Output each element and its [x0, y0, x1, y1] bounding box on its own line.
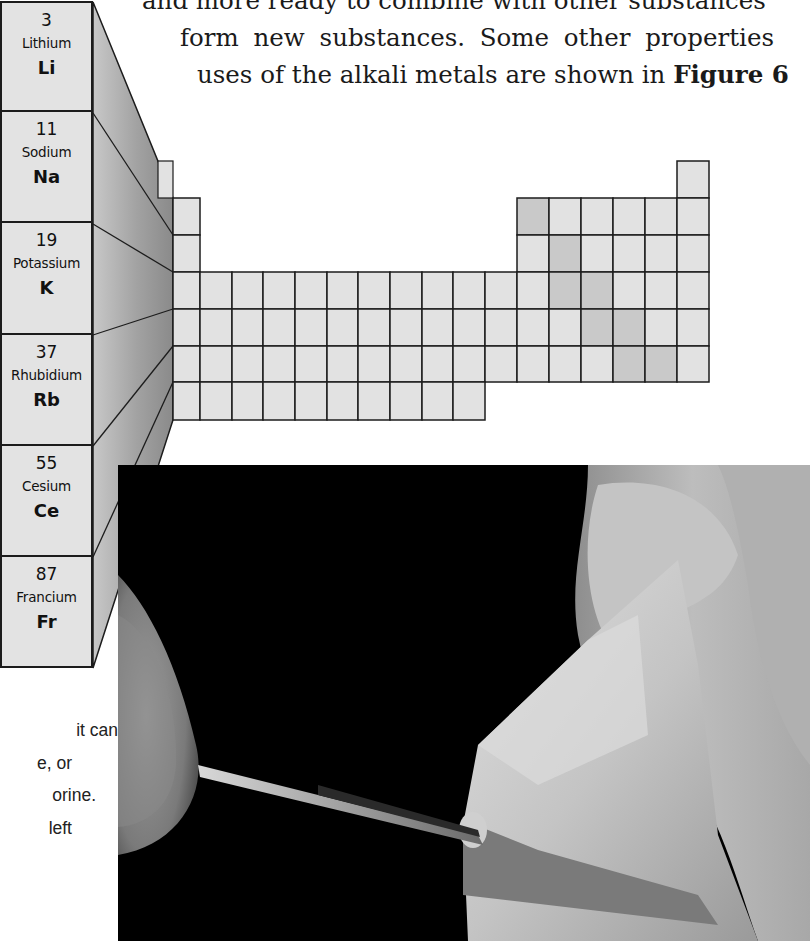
element-cell	[645, 272, 677, 309]
element-cell	[645, 309, 677, 346]
element-symbol: Li	[2, 54, 91, 82]
element-cell	[517, 346, 549, 382]
element-cell	[390, 346, 422, 382]
element-cell	[517, 198, 549, 235]
element-cell	[173, 346, 200, 382]
element-cell-potassium: 19 Potassium K	[0, 223, 93, 334]
element-cell	[422, 382, 453, 420]
element-name: Potassium	[2, 252, 91, 274]
element-cell	[645, 346, 677, 382]
element-cell-rubidium: 37 Rhubidium Rb	[0, 335, 93, 446]
element-cell	[173, 309, 200, 346]
element-cell	[173, 198, 200, 235]
element-symbol: Ce	[2, 497, 91, 525]
element-cell	[517, 235, 549, 272]
element-cell	[677, 272, 709, 309]
element-cell-lithium: 3 Lithium Li	[0, 1, 93, 112]
element-cell	[517, 272, 549, 309]
element-cell	[173, 235, 200, 272]
alkali-metal-strip: 3 Lithium Li 11 Sodium Na 19 Potassium K…	[0, 1, 93, 668]
element-cell-sodium: 11 Sodium Na	[0, 112, 93, 223]
element-cell	[549, 346, 581, 382]
atomic-number: 87	[2, 562, 91, 586]
element-name: Francium	[2, 586, 91, 608]
element-cell	[645, 198, 677, 235]
photo-illustration	[118, 465, 810, 941]
element-cell	[295, 382, 327, 420]
element-cell	[173, 272, 200, 309]
element-cell	[263, 309, 295, 346]
element-cell	[327, 382, 358, 420]
element-cell	[677, 161, 709, 198]
element-cell	[645, 235, 677, 272]
element-cell	[200, 382, 232, 420]
element-symbol: K	[2, 274, 91, 302]
element-cell	[613, 346, 645, 382]
element-cell	[581, 272, 613, 309]
side-line-2: e, or	[0, 747, 118, 780]
element-cell	[485, 272, 517, 309]
element-cell	[232, 272, 263, 309]
element-cell	[549, 198, 581, 235]
element-cell	[263, 346, 295, 382]
element-cell	[295, 346, 327, 382]
element-cell	[263, 382, 295, 420]
element-cell	[358, 382, 390, 420]
element-cell	[200, 272, 232, 309]
element-cell	[485, 346, 517, 382]
element-cell	[232, 346, 263, 382]
element-symbol: Rb	[2, 386, 91, 414]
atomic-number: 37	[2, 340, 91, 364]
element-cell	[232, 382, 263, 420]
element-cell	[517, 309, 549, 346]
atomic-number: 19	[2, 228, 91, 252]
element-cell	[613, 309, 645, 346]
element-cell	[200, 346, 232, 382]
element-cell	[613, 235, 645, 272]
element-cell	[549, 235, 581, 272]
element-cell	[677, 346, 709, 382]
element-cell	[677, 198, 709, 235]
element-cell	[358, 346, 390, 382]
element-cell	[295, 272, 327, 309]
element-name: Cesium	[2, 475, 91, 497]
element-cell	[295, 309, 327, 346]
element-cell-francium: 87 Francium Fr	[0, 557, 93, 668]
element-cell	[453, 382, 485, 420]
element-cell	[422, 309, 453, 346]
element-cell	[581, 235, 613, 272]
element-cell	[263, 272, 295, 309]
side-paragraph: it can e, or orine. left	[0, 714, 118, 844]
element-cell	[390, 309, 422, 346]
element-cell	[581, 309, 613, 346]
element-cell	[581, 346, 613, 382]
atomic-number: 11	[2, 117, 91, 141]
element-cell	[453, 309, 485, 346]
atomic-number: 55	[2, 451, 91, 475]
element-cell	[232, 309, 263, 346]
element-name: Rhubidium	[2, 364, 91, 386]
side-line-4: left	[0, 812, 118, 845]
element-cell	[422, 346, 453, 382]
element-cell	[327, 272, 358, 309]
atomic-number: 3	[2, 8, 91, 32]
element-cell	[390, 272, 422, 309]
element-cell-cesium: 55 Cesium Ce	[0, 446, 93, 557]
element-cell	[200, 309, 232, 346]
element-cell	[327, 346, 358, 382]
element-cell	[358, 309, 390, 346]
element-cell	[453, 346, 485, 382]
element-cell	[327, 309, 358, 346]
alkali-metal-photo	[118, 465, 810, 941]
element-symbol: Na	[2, 163, 91, 191]
element-cell	[549, 272, 581, 309]
element-cell	[677, 309, 709, 346]
element-cell	[422, 272, 453, 309]
element-cell	[485, 309, 517, 346]
side-line-3: orine.	[0, 779, 118, 812]
element-cell	[613, 272, 645, 309]
element-cell	[390, 382, 422, 420]
element-symbol: Fr	[2, 608, 91, 636]
element-cell	[677, 235, 709, 272]
element-cell	[453, 272, 485, 309]
